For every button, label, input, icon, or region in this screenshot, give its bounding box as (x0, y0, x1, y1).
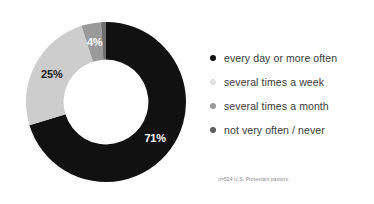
legend-item-several-times-a-week[interactable]: several times a week (210, 70, 374, 94)
donut-slice-value-label: 71% (144, 132, 166, 144)
legend-item-label: every day or more often (224, 52, 337, 64)
donut-slice-group (26, 22, 186, 182)
legend-item-every-day[interactable]: every day or more often (210, 46, 374, 70)
legend-bullet-icon (210, 55, 216, 61)
donut-chart-graphic: 71%25%4%1% (22, 16, 190, 188)
donut-svg: 71%25%4%1% (22, 16, 190, 188)
legend-item-label: several times a month (224, 100, 329, 112)
legend-bullet-icon (210, 79, 216, 85)
donut-slice-value-label: 25% (41, 68, 63, 80)
legend-bullet-icon (210, 103, 216, 109)
chart-footnote: n=524 U.S. Protestant pastors. (218, 176, 290, 182)
legend-item-not-very-often[interactable]: not very often / never (210, 118, 374, 142)
donut-slice-value-label: 4% (87, 36, 103, 48)
legend-item-several-times-a-month[interactable]: several times a month (210, 94, 374, 118)
donut-chart-figure: 71%25%4%1% every day or more often sever… (0, 0, 374, 204)
legend-item-label: several times a week (224, 76, 324, 88)
chart-legend: every day or more often several times a … (210, 46, 374, 142)
legend-bullet-icon (210, 127, 216, 133)
legend-item-label: not very often / never (224, 124, 325, 136)
